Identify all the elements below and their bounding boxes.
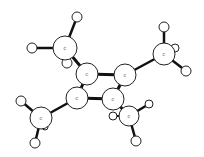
hydrogen-atom-h3a — [16, 96, 26, 106]
atom-sphere — [181, 66, 191, 76]
atom-sphere — [145, 100, 153, 108]
atom-sphere — [16, 96, 26, 106]
atom-label: C — [112, 97, 115, 102]
molecule-diagram: CCCCCCCC — [0, 0, 204, 157]
atom-sphere — [109, 112, 117, 120]
carbon-atom-c_me1: C — [53, 36, 77, 60]
atom-sphere — [27, 43, 37, 53]
atom-sphere — [30, 138, 40, 148]
carbon-atom-c_me2: C — [153, 43, 175, 65]
hydrogen-atom-h1a — [72, 12, 82, 22]
hydrogen-atom-h3b — [30, 138, 40, 148]
atom-label: C — [64, 46, 67, 51]
carbon-atom-c_r3: C — [66, 87, 88, 109]
atom-label: C — [163, 52, 166, 57]
atom-label: C — [86, 72, 89, 77]
atom-label: C — [124, 73, 127, 78]
carbon-atom-c_r2: C — [114, 64, 136, 86]
atom-label: C — [76, 96, 79, 101]
atom-sphere — [72, 12, 82, 22]
atom-sphere — [159, 22, 169, 32]
hydrogen-atom-h2a — [159, 22, 169, 32]
hydrogen-atom-h4b — [109, 112, 117, 120]
carbon-atom-c_me4: C — [119, 106, 139, 126]
hydrogen-atom-h4c — [131, 136, 141, 146]
atom-label: C — [40, 116, 43, 121]
atoms-layer: CCCCCCCC — [16, 12, 191, 148]
carbon-atom-c_r4: C — [102, 88, 124, 110]
hydrogen-atom-h2c — [181, 66, 191, 76]
carbon-atom-c_me3: C — [30, 107, 52, 129]
carbon-atom-c_r1: C — [76, 63, 98, 85]
hydrogen-atom-h1b — [27, 43, 37, 53]
hydrogen-atom-h4a — [145, 100, 153, 108]
atom-sphere — [131, 136, 141, 146]
atom-label: C — [128, 114, 131, 119]
